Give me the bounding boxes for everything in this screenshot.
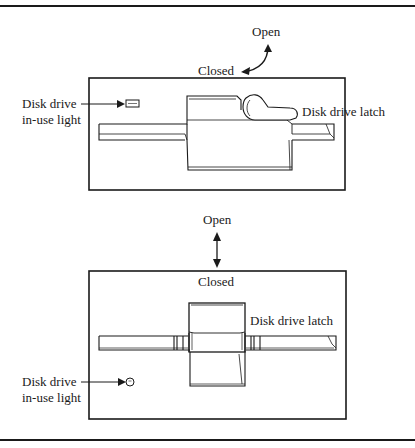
bottom-closed-label: Closed: [198, 274, 234, 289]
bottom-light-label-line1: Disk drive: [22, 374, 77, 389]
top-open-closed-arrow: [243, 46, 268, 72]
bottom-in-use-light: [126, 378, 134, 386]
top-closed-label: Closed: [198, 63, 234, 78]
bottom-open-closed-arrow: [213, 232, 221, 268]
top-latch-label: Disk drive latch: [302, 104, 385, 119]
bottom-open-label: Open: [203, 212, 231, 227]
top-light-label-line2: in-use light: [22, 112, 81, 127]
bottom-latch-label: Disk drive latch: [250, 313, 333, 328]
bottom-drive-panel: [89, 271, 346, 419]
bottom-light-label-line2: in-use light: [22, 390, 81, 405]
top-light-label-line1: Disk drive: [22, 96, 77, 111]
top-drive-panel: [89, 78, 345, 190]
top-open-label: Open: [252, 24, 280, 39]
top-latch-lever: [243, 95, 297, 120]
